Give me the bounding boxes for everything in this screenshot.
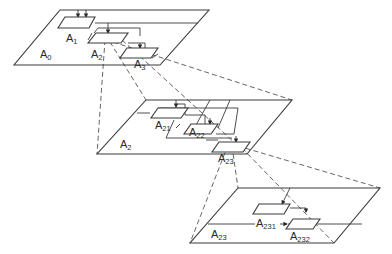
plane-a2: A21 A22 A23 A2 [97, 100, 292, 166]
box-a21: A21 [151, 108, 188, 133]
label-a232: A232 [290, 230, 310, 244]
plane-a0: A1 A2 A3 A0 [14, 10, 209, 72]
label-a231: A231 [256, 217, 276, 231]
label-a1: A1 [66, 32, 78, 46]
box-a3: A3 [120, 48, 158, 72]
label-a0: A0 [40, 48, 52, 62]
plane-a23: A231 A232 A23 [190, 188, 380, 244]
label-a21: A21 [155, 119, 171, 133]
label-a2: A2 [91, 48, 103, 62]
label-a3: A3 [134, 58, 146, 72]
box-a231: A231 [253, 204, 290, 231]
label-a23-plane: A23 [211, 228, 227, 242]
box-a232: A232 [286, 219, 320, 244]
decomposition-diagram: A1 A2 A3 A0 A21 [0, 0, 392, 254]
label-a2-plane: A2 [120, 138, 132, 152]
